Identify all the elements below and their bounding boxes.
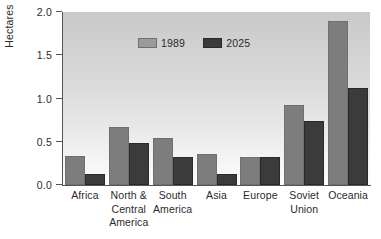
bar-chart-figure: Hectares 0.00.51.01.52.0 19892025 Africa… <box>0 0 381 239</box>
x-axis-label-line: Union <box>279 203 329 217</box>
legend-entry-1989[interactable]: 1989 <box>138 37 185 49</box>
bar-2025 <box>260 157 280 185</box>
y-axis-tick-label: 2.0 <box>28 5 52 19</box>
y-axis-tick-label: 1.0 <box>28 92 52 106</box>
bar-1989 <box>153 138 173 185</box>
x-axis-category-label: Africa <box>60 189 110 203</box>
bar-group <box>65 12 105 185</box>
y-axis-tick: 1.5 <box>28 48 62 62</box>
x-axis-category-label: SovietUnion <box>279 189 329 216</box>
y-axis-tick: 1.0 <box>28 92 62 106</box>
bar-1989 <box>65 156 85 185</box>
x-axis-label-layer: AfricaNorth &CentralAmericaSouthAmericaA… <box>63 189 370 239</box>
bar-2025 <box>348 88 368 185</box>
x-axis-label-line: Europe <box>235 189 285 203</box>
bar-1989 <box>197 154 217 185</box>
chart-legend: 19892025 <box>138 36 250 50</box>
legend-swatch-2025 <box>203 38 222 48</box>
x-axis-category-label: North &CentralAmerica <box>104 189 154 230</box>
legend-label: 1989 <box>161 37 185 49</box>
legend-entry-2025[interactable]: 2025 <box>203 37 250 49</box>
legend-label: 2025 <box>226 37 250 49</box>
y-axis-tick-label: 0.5 <box>28 135 52 149</box>
bar-group <box>284 12 324 185</box>
bar-2025 <box>173 157 193 185</box>
x-axis-category-label: SouthAmerica <box>148 189 198 216</box>
x-axis-label-line: America <box>104 216 154 230</box>
x-axis-category-label: Oceania <box>323 189 373 203</box>
x-axis-label-line: Soviet <box>279 189 329 203</box>
bar-1989 <box>328 21 348 185</box>
x-axis-label-line: Central <box>104 203 154 217</box>
y-axis-tick: 2.0 <box>28 5 62 19</box>
x-axis-category-label: Europe <box>235 189 285 203</box>
x-axis-label-line: Africa <box>60 189 110 203</box>
x-axis-label-line: Oceania <box>323 189 373 203</box>
y-axis-tick-label: 0.0 <box>28 178 52 192</box>
y-axis-tick: 0.5 <box>28 135 62 149</box>
x-axis-label-line: South <box>148 189 198 203</box>
bar-group <box>328 12 368 185</box>
x-axis-label-line: Asia <box>192 189 242 203</box>
bar-2025 <box>304 121 324 185</box>
x-axis-line <box>62 185 371 186</box>
legend-swatch-1989 <box>138 38 157 48</box>
y-axis-tick: 0.0 <box>28 178 62 192</box>
x-axis-label-line: America <box>148 203 198 217</box>
y-axis-tick-label: 1.5 <box>28 48 52 62</box>
bar-2025 <box>129 143 149 185</box>
x-axis-category-label: Asia <box>192 189 242 203</box>
bar-1989 <box>109 127 129 185</box>
bar-1989 <box>284 105 304 185</box>
bar-1989 <box>240 157 260 185</box>
bar-2025 <box>85 174 105 185</box>
bar-2025 <box>217 174 237 185</box>
x-axis-label-line: North & <box>104 189 154 203</box>
